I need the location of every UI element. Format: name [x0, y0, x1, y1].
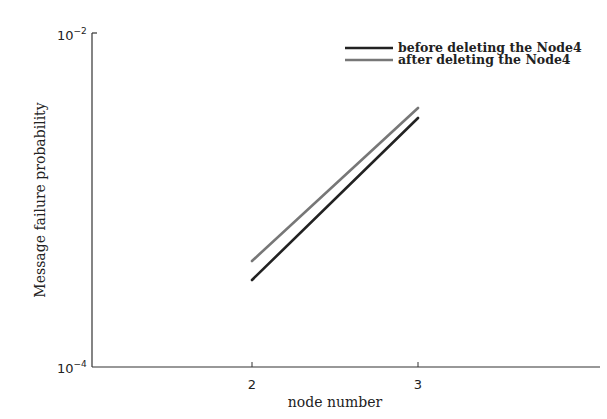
series-before-line [252, 118, 418, 280]
legend-label-after: after deleting the Node4 [398, 52, 571, 67]
y-tick-label-bottom: 10−4 [57, 359, 87, 376]
series-after-line [252, 108, 418, 261]
series-lines [252, 108, 418, 280]
legend: before deleting the Node4 after deleting… [345, 40, 582, 67]
x-axis-label: node number [288, 394, 383, 410]
axes [92, 33, 600, 367]
x-tick-label-2: 2 [248, 377, 256, 392]
y-tick-label-top: 10−2 [57, 26, 87, 43]
x-tick-label-3: 3 [414, 377, 422, 392]
y-axis-label: Message failure probability [32, 102, 48, 297]
chart: 10−2 10−4 2 3 node number Message failur… [0, 0, 607, 419]
